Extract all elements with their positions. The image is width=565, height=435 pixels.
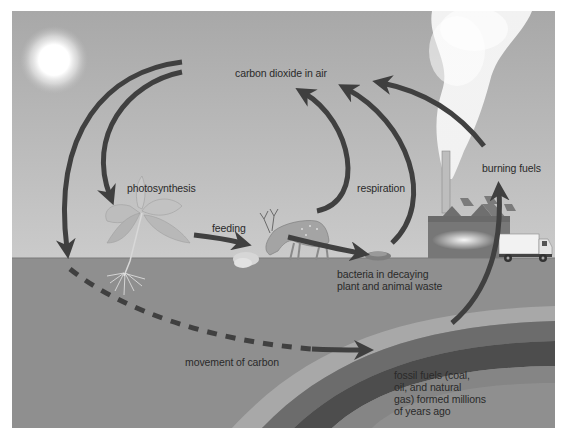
carbon-cycle-diagram: carbon dioxide in air photosynthesis fee… bbox=[12, 11, 555, 428]
label-respiration: respiration bbox=[357, 182, 405, 195]
label-movement-of-carbon: movement of carbon bbox=[185, 356, 279, 369]
label-fossil-line1: fossil fuels (coal, bbox=[394, 369, 470, 382]
label-burning-fuels: burning fuels bbox=[482, 162, 541, 175]
label-carbon-dioxide: carbon dioxide in air bbox=[235, 67, 327, 80]
decaying-waste bbox=[365, 252, 391, 261]
label-fossil-line2: oil, and natural bbox=[394, 381, 461, 394]
label-feeding: feeding bbox=[212, 222, 246, 235]
label-fossil-line3: gas) formed millions bbox=[394, 393, 486, 406]
label-photosynthesis: photosynthesis bbox=[127, 182, 196, 195]
sun-icon bbox=[20, 26, 88, 94]
label-bacteria-line1: bacteria in decaying bbox=[337, 268, 428, 281]
label-bacteria-line2: plant and animal waste bbox=[337, 280, 442, 293]
label-fossil-line4: of years ago bbox=[394, 405, 451, 418]
arrow-movement-of-carbon-solid bbox=[312, 349, 364, 350]
